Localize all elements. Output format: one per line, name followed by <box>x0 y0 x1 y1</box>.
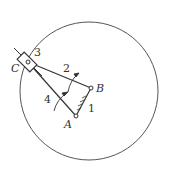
label-link-3: 3 <box>34 46 41 59</box>
label-link-4: 4 <box>44 93 51 106</box>
label-A: A <box>63 118 72 131</box>
joint-B <box>89 86 93 90</box>
frame-hatch <box>77 96 86 110</box>
label-C: C <box>11 62 20 75</box>
joint-A <box>74 114 78 118</box>
linkage-diagram: C B A 3 2 4 1 <box>0 0 171 175</box>
rotation-arrow-4 <box>54 92 68 111</box>
joint-C <box>26 60 30 64</box>
label-link-1: 1 <box>88 102 95 115</box>
label-link-2: 2 <box>63 62 70 75</box>
label-B: B <box>95 82 104 95</box>
link-2 <box>28 62 91 88</box>
